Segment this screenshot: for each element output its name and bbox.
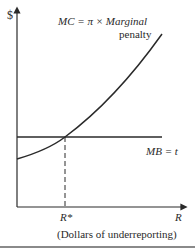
x-axis-note: (Dollars of underreporting) (57, 228, 177, 240)
y-axis-label: $ (7, 9, 13, 21)
chart-canvas (0, 0, 195, 252)
mb-label: MB = t (146, 145, 178, 157)
mc-label-line1: MC = π × Marginal (58, 15, 147, 27)
mc-label-line2: penalty (119, 28, 151, 40)
r-star-label: R* (60, 211, 72, 223)
bottom-rule (0, 246, 195, 248)
x-axis-label: R (175, 211, 182, 223)
mc-curve (17, 34, 162, 159)
